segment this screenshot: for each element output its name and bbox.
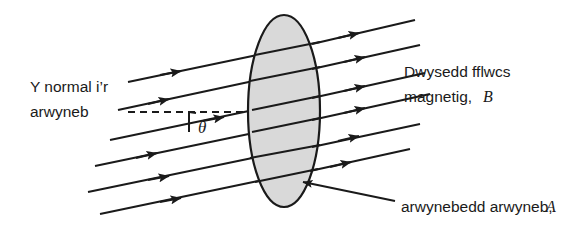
area-symbol: A bbox=[545, 198, 556, 215]
field-arrow-6-out-icon bbox=[330, 162, 351, 167]
field-arrow-3-out-icon bbox=[344, 86, 365, 91]
field-arrow-2-out-icon bbox=[344, 57, 365, 62]
angle-theta-label: θ bbox=[198, 118, 206, 137]
flux-density-symbol: B bbox=[483, 88, 493, 105]
magnetic-flux-diagram: θ Y normal i’r arwyneb Dwysedd fflwcs ma… bbox=[0, 0, 582, 231]
field-arrowheads-outgoing bbox=[330, 33, 365, 167]
flux-density-label-line2: magnetig, bbox=[404, 88, 472, 105]
field-arrow-4-out-icon bbox=[344, 108, 365, 113]
flux-density-label-line1: Dwysedd fflwcs bbox=[404, 63, 511, 80]
field-arrow-1-in-icon bbox=[160, 71, 181, 75]
flux-diagram-canvas: θ Y normal i’r arwyneb Dwysedd fflwcs ma… bbox=[0, 0, 582, 231]
field-arrow-2-in-icon bbox=[148, 99, 169, 104]
normal-label-line2: arwyneb bbox=[30, 103, 89, 120]
field-line-1-in bbox=[128, 54, 262, 82]
area-leader-line bbox=[303, 182, 395, 201]
field-line-2-in bbox=[118, 80, 258, 110]
angle-tick-icon bbox=[189, 112, 196, 113]
field-lines-incoming bbox=[88, 54, 268, 214]
field-line-1-out bbox=[312, 20, 415, 44]
field-line-5-out bbox=[312, 124, 420, 147]
field-arrow-4-in-icon bbox=[136, 153, 157, 158]
field-arrow-1-out-icon bbox=[338, 33, 359, 38]
area-label-text: arwynebedd arwyneb, bbox=[401, 198, 553, 215]
normal-label-line1: Y normal i’r bbox=[30, 78, 108, 95]
field-line-6-out bbox=[310, 149, 410, 171]
